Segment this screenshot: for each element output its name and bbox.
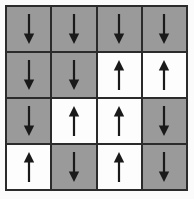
spin-cell-r4-c2[interactable]	[52, 145, 95, 189]
arrow-down-icon	[157, 152, 171, 182]
spin-cell-r4-c1[interactable]	[7, 145, 50, 189]
spin-cell-r2-c1[interactable]	[7, 53, 50, 97]
arrow-down-icon	[112, 14, 126, 44]
spin-cell-r2-c4[interactable]	[143, 53, 186, 97]
arrow-down-icon	[22, 14, 36, 44]
spin-cell-r3-c1[interactable]	[7, 99, 50, 143]
spin-cell-r1-c3[interactable]	[98, 7, 141, 51]
arrow-up-icon	[112, 152, 126, 182]
arrow-up-icon	[112, 60, 126, 90]
spin-cell-r1-c2[interactable]	[52, 7, 95, 51]
spin-cell-r2-c3[interactable]	[98, 53, 141, 97]
spin-cell-r3-c3[interactable]	[98, 99, 141, 143]
arrow-up-icon	[112, 106, 126, 136]
arrow-down-icon	[157, 14, 171, 44]
arrow-down-icon	[67, 152, 81, 182]
arrow-up-icon	[157, 60, 171, 90]
arrow-up-icon	[22, 152, 36, 182]
arrow-down-icon	[22, 106, 36, 136]
spin-lattice-figure	[0, 0, 194, 199]
arrow-down-icon	[67, 60, 81, 90]
arrow-up-icon	[67, 106, 81, 136]
spin-cell-r1-c1[interactable]	[7, 7, 50, 51]
spin-cell-r4-c3[interactable]	[98, 145, 141, 189]
spin-cell-r3-c2[interactable]	[52, 99, 95, 143]
spin-cell-r4-c4[interactable]	[143, 145, 186, 189]
spin-cell-r1-c4[interactable]	[143, 7, 186, 51]
spin-cell-r2-c2[interactable]	[52, 53, 95, 97]
arrow-down-icon	[67, 14, 81, 44]
spin-lattice-grid	[5, 5, 188, 191]
arrow-down-icon	[157, 106, 171, 136]
arrow-down-icon	[22, 60, 36, 90]
spin-cell-r3-c4[interactable]	[143, 99, 186, 143]
